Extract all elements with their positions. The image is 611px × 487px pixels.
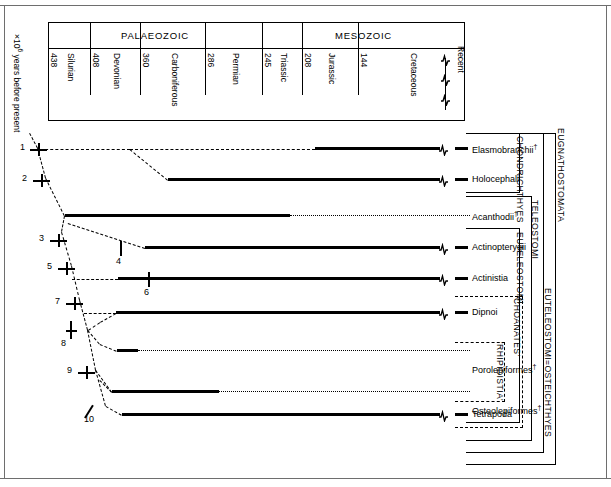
- period-name-silurian: Silurian: [66, 53, 76, 81]
- branch-node3-to-actinopterygii: [68, 223, 145, 249]
- node-number-4: 4: [116, 256, 121, 266]
- period-boundary-age-286: 286: [206, 53, 216, 67]
- node-number-9: 9: [67, 365, 72, 375]
- branch-to-dipnoi: [84, 313, 116, 314]
- clade-label-choanates: 'CHOANATES': [512, 296, 522, 357]
- range-bar-solid: [118, 277, 440, 280]
- branch-node1-horizontal: [40, 149, 130, 150]
- range-break-zigzag: [438, 173, 449, 185]
- node-number-10: 10: [84, 414, 94, 424]
- branch-to-porolepiformes: [100, 344, 117, 352]
- branch-root-stub: [29, 133, 38, 148]
- branch-node1-to-elasmobranchii: [130, 149, 315, 150]
- clade-label-euteleostomi: EUTELEOSTOMI: [515, 232, 525, 304]
- branch-node5-to-actinistia: [72, 279, 118, 280]
- axis-caption-prefix: ×10: [12, 34, 22, 48]
- branch-to-tetrapoda: [106, 406, 122, 416]
- range-bar-dotted: [290, 215, 470, 216]
- node-tick-vertical-9: [86, 366, 88, 379]
- branch-node8-up: [88, 322, 101, 331]
- range-bar-solid: [145, 246, 440, 249]
- range-bar-solid: [315, 147, 440, 150]
- node-tick-6: [148, 272, 150, 287]
- clade-label-eugnathostomata: EUGNATHOSTOMATA: [556, 128, 566, 222]
- clade-label-rhipidistia: 'RHIPIDISTIA': [495, 342, 505, 401]
- range-bar-solid: [116, 311, 440, 314]
- range-bar-solid: [117, 349, 138, 352]
- period-boundary-age-144: 144: [359, 53, 369, 67]
- period-name-cretaceous: Cretaceous: [409, 53, 419, 96]
- node-number-2: 2: [22, 173, 27, 183]
- era-label: PALAEOZOIC: [121, 30, 189, 41]
- period-boundary-age-360: 360: [141, 53, 151, 67]
- period-boundary-age-245: 245: [263, 53, 273, 67]
- figure-root: ×106 years before present Recent PALAEOZ…: [0, 0, 611, 487]
- node-number-5: 5: [47, 261, 52, 271]
- period-boundary-age-438: 438: [49, 53, 59, 67]
- clade-label-teleostomi: TELEOSTOMI: [530, 200, 540, 259]
- era-cell-palaeozoic: PALAEOZOIC: [48, 22, 262, 48]
- period-name-carboniferous: Carboniferous: [170, 53, 180, 106]
- range-break-zigzag: [438, 306, 449, 318]
- clade-label-euteleostomi-osteichthyes: EUTELEOSTOMI=OSTEICHTHYES: [543, 288, 553, 437]
- range-break-zigzag: [438, 408, 449, 420]
- range-break-zigzag: [438, 241, 449, 253]
- node-number-8: 8: [61, 338, 66, 348]
- era-period-separator: [48, 48, 465, 49]
- axis-caption-suffix: years before present: [12, 52, 22, 132]
- branch-node8-to-dipnoi: [100, 313, 116, 323]
- range-bar-solid: [168, 178, 440, 181]
- frame-top-border: [0, 5, 611, 6]
- period-name-jurassic: Jurassic: [327, 53, 337, 84]
- range-bar-solid: [65, 214, 290, 217]
- clade-label-chondrichthyes: CHONDRICHTHYES: [515, 136, 525, 223]
- era-label: MESOZOIC: [335, 30, 392, 41]
- range-bar-solid: [122, 413, 440, 416]
- frame-left-border: [4, 5, 5, 479]
- period-name-permian: Permian: [231, 53, 241, 85]
- node-tick-vertical-3: [58, 234, 60, 247]
- node-tick-4: [120, 241, 122, 256]
- branch-2-to-3: [45, 178, 65, 216]
- range-bar-solid: [112, 390, 219, 393]
- node-number-6: 6: [144, 287, 149, 297]
- era-cell-mesozoic: MESOZOIC: [262, 22, 465, 48]
- node-tick-vertical-7: [74, 297, 76, 310]
- frame-bottom-border: [0, 478, 611, 479]
- frame-right-border: [606, 5, 607, 479]
- node-tick-vertical-1: [38, 143, 40, 156]
- branch-3-upper: [61, 216, 65, 232]
- period-name-devonian: Devonian: [112, 53, 122, 89]
- branch-node1-to-holocephali: [129, 149, 168, 181]
- node-number-3: 3: [39, 233, 44, 243]
- node-bar-8: [66, 330, 77, 332]
- period-boundary-age-408: 408: [91, 53, 101, 67]
- range-bar-dotted: [138, 350, 470, 351]
- period-name-triassic: Triassic: [279, 53, 289, 82]
- range-break-zigzag: [438, 272, 449, 284]
- range-bar-dotted: [219, 391, 470, 392]
- axis-caption: ×106 years before present: [11, 34, 26, 126]
- recent-column-label: Recent: [456, 46, 466, 73]
- node-number-7: 7: [55, 296, 60, 306]
- recent-axis-line: [445, 58, 446, 110]
- node-tick-vertical-5: [66, 262, 68, 275]
- period-boundary-age-208: 208: [303, 53, 313, 67]
- node-number-1: 1: [20, 142, 25, 152]
- branch-5-to-7: [71, 266, 80, 300]
- node-tick-vertical-2: [41, 174, 43, 187]
- range-break-zigzag: [438, 142, 449, 154]
